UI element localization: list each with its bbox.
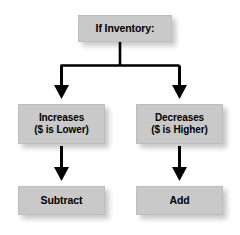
arrowhead-to-decreases: [172, 85, 187, 99]
arrowhead-to-subtract: [54, 167, 69, 181]
node-if-inventory-label: If Inventory:: [96, 22, 155, 34]
node-decreases-label-line2: ($ is Higher): [151, 124, 208, 136]
node-add: Add: [136, 186, 223, 215]
node-subtract: Subtract: [18, 186, 105, 215]
node-if-inventory: If Inventory:: [78, 15, 172, 42]
node-increases: Increases ($ is Lower): [18, 104, 105, 144]
arrowhead-to-add: [172, 167, 187, 181]
node-decreases: Decreases ($ is Higher): [136, 104, 223, 144]
node-subtract-label: Subtract: [41, 194, 83, 206]
arrowhead-to-increases: [54, 85, 69, 99]
flowchart-canvas: If Inventory: Increases ($ is Lower) Dec…: [0, 0, 240, 235]
node-increases-label-line1: Increases: [39, 112, 84, 124]
node-add-label: Add: [169, 194, 189, 206]
node-decreases-label-line1: Decreases: [155, 112, 204, 124]
node-increases-label-line2: ($ is Lower): [34, 124, 88, 136]
